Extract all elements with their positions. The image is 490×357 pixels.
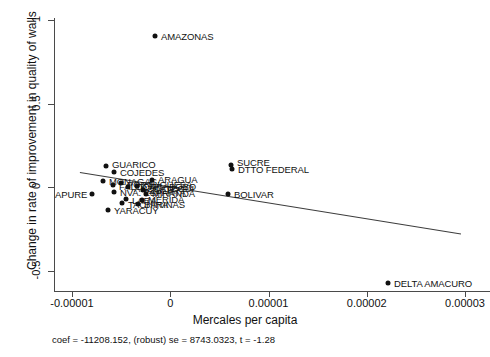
- data-point: [101, 179, 106, 184]
- data-point: [106, 208, 111, 213]
- y-tick: [48, 20, 54, 21]
- x-tick-label: 0.00002: [347, 297, 387, 309]
- x-tick-label: 0: [167, 297, 173, 309]
- x-axis-label: Mercales per capita: [0, 313, 490, 327]
- x-axis-line: [54, 291, 490, 292]
- x-tick-label: -0.00001: [50, 297, 93, 309]
- data-point: [112, 190, 117, 195]
- y-axis-label: Change in rate of improvement in quality…: [25, 40, 39, 270]
- data-point-label: DELTA AMACURO: [394, 278, 472, 289]
- scatter-plot-figure: 10.50-0.5 -0.0000100.000010.000020.00003…: [0, 0, 490, 357]
- x-tick-label: 0.00001: [249, 297, 289, 309]
- data-point: [386, 281, 391, 286]
- data-point-label: DTTO FEDERAL: [238, 164, 309, 175]
- data-point: [112, 170, 117, 175]
- data-point: [104, 164, 109, 169]
- data-point: [90, 192, 95, 197]
- y-tick: [48, 104, 54, 105]
- data-point-label: AMAZONAS: [161, 31, 214, 42]
- y-axis-line: [54, 18, 55, 292]
- x-tick-label: 0.00003: [445, 297, 485, 309]
- y-tick: [48, 187, 54, 188]
- data-point: [111, 183, 116, 188]
- data-point: [230, 167, 235, 172]
- data-point-label: YARACUY: [114, 205, 159, 216]
- y-tick: [48, 271, 54, 272]
- data-point-label: BOLIVAR: [234, 189, 274, 200]
- data-point: [153, 34, 158, 39]
- regression-caption: coef = -11208.152, (robust) se = 8743.03…: [52, 334, 275, 345]
- data-point-label: APURE: [55, 189, 87, 200]
- data-point: [226, 192, 231, 197]
